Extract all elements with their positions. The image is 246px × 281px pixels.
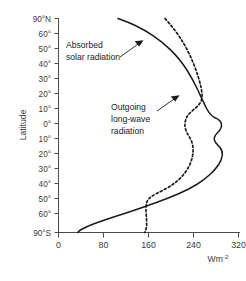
- xtick-label: 0: [56, 240, 61, 250]
- ytick-label: 60°: [39, 30, 51, 39]
- ytick-label: 40°: [39, 60, 51, 69]
- y-tick-marks: [55, 19, 59, 233]
- radiation-latitude-figure: 90°N 60° 50° 40° 30° 20° 10° 0° 10° 20° …: [0, 0, 246, 281]
- x-tick-labels: 0 80 160 240 320: [56, 240, 246, 250]
- annotation-outgoing-line-1: Outgoing: [111, 102, 146, 112]
- ytick-label: 10°: [39, 105, 51, 114]
- ytick-label: 90°N: [33, 15, 51, 24]
- ytick-label: 0°: [43, 120, 51, 129]
- ytick-label: 10°: [39, 135, 51, 144]
- ytick-label: 60°: [39, 210, 51, 219]
- ytick-label: 40°: [39, 180, 51, 189]
- xtick-label: 160: [141, 240, 156, 250]
- annotation-outgoing-line-3: radiation: [111, 126, 144, 136]
- series-outgoing-long-wave-radiation: [145, 19, 202, 233]
- annotation-absorbed-line-1: Absorbed: [66, 40, 103, 50]
- axis-lines: [59, 19, 240, 233]
- xtick-label: 320: [231, 240, 246, 250]
- ytick-label: 20°: [39, 90, 51, 99]
- x-axis-unit-base: Wm: [208, 254, 223, 264]
- ytick-label: 20°: [39, 150, 51, 159]
- ytick-label: 50°: [39, 45, 51, 54]
- annotation-outgoing-long-wave-radiation: Outgoing long-wave radiation: [111, 95, 180, 136]
- annotation-absorbed-line-2: solar radiation: [66, 52, 120, 62]
- ytick-label: 50°: [39, 195, 51, 204]
- xtick-label: 80: [99, 240, 109, 250]
- annotation-absorbed-solar-radiation: Absorbed solar radiation: [66, 40, 144, 62]
- y-axis-title: Latitude: [18, 109, 28, 140]
- chart-canvas: 90°N 60° 50° 40° 30° 20° 10° 0° 10° 20° …: [0, 0, 246, 281]
- ytick-label: 30°: [39, 75, 51, 84]
- ytick-label: 30°: [39, 165, 51, 174]
- x-axis-unit-exponent: -2: [223, 253, 229, 260]
- y-tick-labels: 90°N 60° 50° 40° 30° 20° 10° 0° 10° 20° …: [33, 15, 52, 238]
- series-absorbed-solar-radiation: [78, 19, 223, 233]
- xtick-label: 240: [186, 240, 201, 250]
- annotation-outgoing-line-2: long-wave: [111, 114, 150, 124]
- x-tick-marks: [59, 233, 239, 238]
- ytick-label: 90°S: [33, 229, 51, 238]
- x-axis-unit-label: Wm-2: [208, 253, 229, 264]
